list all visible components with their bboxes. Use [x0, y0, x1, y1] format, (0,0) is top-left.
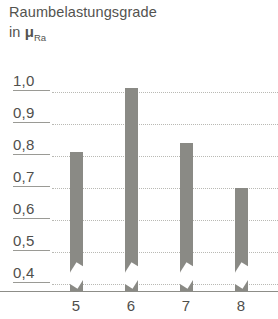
y-axis-tick-0-7: 0,7 [13, 168, 51, 187]
x-axis-tick-7: 7 [171, 297, 201, 314]
y-axis-tick-label: 0,6 [13, 200, 51, 218]
y-axis-tick-rule [13, 218, 50, 219]
x-axis-tick-6: 6 [116, 297, 146, 314]
y-axis-tick-rule [13, 282, 50, 283]
bar-category-5[interactable] [70, 152, 83, 291]
y-axis-tick-rule [13, 186, 50, 187]
y-axis-tick-rule [13, 122, 50, 123]
gridline-0-8 [52, 156, 278, 157]
gridline-1-0 [52, 92, 278, 93]
x-axis-tick-5: 5 [61, 297, 91, 314]
mu-symbol: μ [25, 23, 34, 40]
bar-category-7[interactable] [180, 143, 193, 291]
y-axis-tick-label: 0,5 [13, 232, 51, 250]
bar-chart: Raumbelastungsgrade in μRa 1,0 0,9 0,8 0… [0, 0, 278, 319]
axis-break-notch-icon [70, 262, 83, 289]
bar-category-8[interactable] [235, 188, 248, 291]
y-axis-tick-1-0: 1,0 [13, 72, 51, 91]
y-axis-tick-label: 1,0 [13, 72, 51, 90]
plot-area [52, 66, 278, 291]
y-axis-tick-0-4: 0,4 [13, 264, 51, 283]
chart-title-line2: in μRa [9, 22, 157, 48]
axis-break-notch-icon [125, 262, 138, 289]
y-axis-tick-0-8: 0,8 [13, 136, 51, 155]
y-axis-tick-0-6: 0,6 [13, 200, 51, 219]
mu-subscript: Ra [34, 32, 46, 43]
axis-break-notch-icon [180, 262, 193, 289]
chart-title-unit-prefix: in [9, 24, 25, 40]
y-axis-tick-0-5: 0,5 [13, 232, 51, 251]
bar-category-6[interactable] [125, 88, 138, 291]
y-axis-tick-rule [13, 154, 50, 155]
gridline-0-9 [52, 124, 278, 125]
y-axis-tick-label: 0,4 [13, 264, 51, 282]
x-axis-tick-8: 8 [226, 297, 256, 314]
axis-break-notch-icon [235, 262, 248, 289]
y-axis-tick-rule [13, 250, 50, 251]
y-axis-tick-label: 0,9 [13, 104, 51, 122]
y-axis-tick-0-9: 0,9 [13, 104, 51, 123]
y-axis-tick-label: 0,8 [13, 136, 51, 154]
y-axis-tick-rule [13, 90, 50, 91]
y-axis-tick-label: 0,7 [13, 168, 51, 186]
chart-title: Raumbelastungsgrade in μRa [9, 2, 157, 48]
x-axis-line [0, 291, 278, 292]
chart-title-line1: Raumbelastungsgrade [9, 4, 157, 20]
